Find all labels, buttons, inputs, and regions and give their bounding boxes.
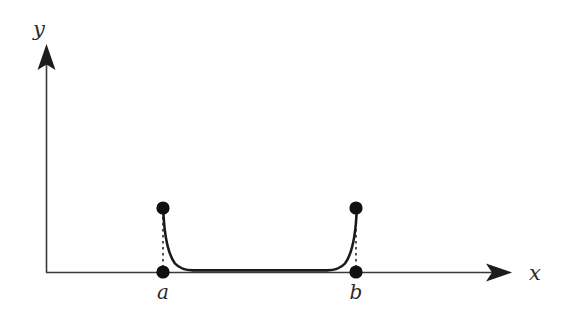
tick-label-a: a	[157, 280, 169, 304]
figure-canvas: y x a b	[0, 0, 564, 316]
x-axis-label: x	[529, 261, 541, 285]
math-figure: y x a b	[0, 0, 564, 316]
tick-label-b: b	[350, 280, 363, 304]
function-curve	[163, 209, 357, 271]
endpoint-dot-a-axis	[156, 265, 169, 278]
y-axis-label: y	[32, 17, 46, 41]
endpoint-dot-b-axis	[349, 265, 362, 278]
endpoint-dot-a-top	[156, 201, 169, 214]
endpoint-dot-b-top	[349, 201, 362, 214]
